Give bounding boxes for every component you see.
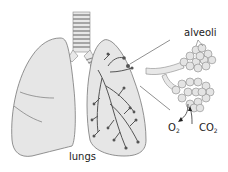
o2-arrow-head [178, 117, 183, 122]
alveoli-cluster-upper [180, 44, 216, 72]
lungs-label: lungs [69, 152, 96, 162]
right-lung [87, 40, 146, 156]
o2-label: O2 [168, 123, 180, 134]
callout-line-bottom [140, 86, 170, 110]
co2-label: CO2 [199, 123, 218, 134]
callout-line-top [130, 40, 170, 64]
alveoli-label: alveoli [184, 28, 217, 38]
alveoli-cluster-lower [172, 78, 214, 112]
co2-label-subscript: 2 [214, 127, 218, 134]
o2-label-main: O [168, 122, 176, 133]
gas-exchange-arrows [178, 104, 192, 124]
o2-label-subscript: 2 [176, 127, 180, 134]
co2-label-main: CO [199, 122, 214, 133]
lungs-diagram [0, 0, 228, 172]
